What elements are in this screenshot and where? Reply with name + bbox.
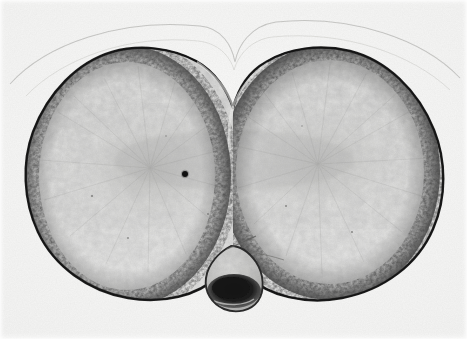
specimen-stage <box>0 0 467 339</box>
dense-granule-halo <box>181 170 189 178</box>
photomicrograph-figure <box>0 0 467 339</box>
polar-body-core-dense <box>212 277 250 299</box>
